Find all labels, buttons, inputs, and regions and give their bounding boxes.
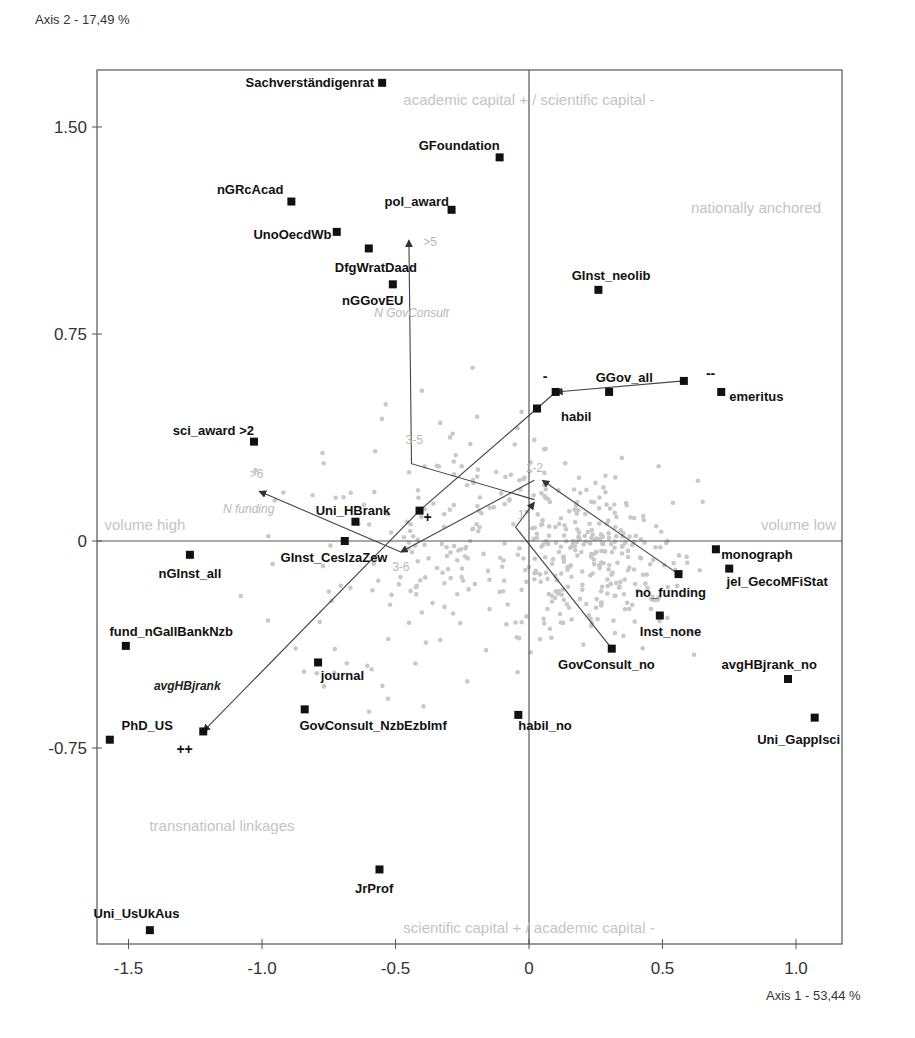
individual-point	[550, 599, 555, 604]
individual-point	[544, 570, 549, 575]
individual-point	[607, 563, 612, 568]
category-marker	[375, 865, 383, 873]
category-label: GInst_neolib	[572, 268, 651, 283]
individual-point	[543, 447, 548, 452]
individual-point	[386, 637, 391, 642]
individual-point	[618, 580, 623, 585]
individual-point	[671, 500, 676, 505]
individual-point	[559, 571, 564, 576]
individual-point	[424, 640, 429, 645]
individual-point	[632, 567, 637, 572]
individual-point	[473, 582, 478, 587]
individual-point	[622, 592, 627, 597]
individual-point	[481, 552, 486, 557]
category-marker	[784, 675, 792, 683]
individual-point	[648, 562, 653, 567]
category-label: sci_award >2	[173, 423, 254, 438]
individual-point	[477, 525, 482, 530]
category-marker	[199, 727, 207, 735]
individual-point	[595, 617, 600, 622]
individual-point	[369, 667, 374, 672]
y-tick-label: -0.75	[48, 739, 87, 758]
individual-point	[386, 697, 391, 702]
individual-point	[511, 522, 516, 527]
individual-point	[535, 512, 540, 517]
individual-point	[626, 549, 631, 554]
individual-point	[617, 584, 622, 589]
category-marker	[301, 705, 309, 713]
category-label: nGRcAcad	[217, 182, 284, 197]
individual-point	[422, 542, 427, 547]
individual-point	[444, 545, 449, 550]
individual-point	[413, 661, 418, 666]
individual-point	[547, 592, 552, 597]
individual-point	[583, 512, 588, 517]
region-label: transnational linkages	[149, 817, 294, 834]
individual-point	[538, 580, 543, 585]
individual-point	[630, 603, 635, 608]
individual-point	[601, 485, 606, 490]
individual-point	[627, 607, 632, 612]
trajectory-step-label: >6	[250, 467, 264, 481]
individual-point	[503, 475, 508, 480]
individual-point	[320, 451, 325, 456]
individual-point	[502, 502, 507, 507]
individual-point	[599, 589, 604, 594]
individual-point	[430, 601, 435, 606]
region-label: nationally anchored	[691, 199, 821, 216]
individual-point	[487, 578, 492, 583]
category-label: Sachverständigenrat	[246, 75, 375, 90]
individual-point	[553, 525, 558, 530]
individual-point	[591, 571, 596, 576]
individual-point	[685, 561, 690, 566]
individual-point	[608, 506, 613, 511]
individual-point	[293, 646, 298, 651]
category-label: journal	[320, 668, 364, 683]
individual-point	[600, 584, 605, 589]
individual-point	[465, 679, 470, 684]
category-marker	[594, 286, 602, 294]
individual-point	[411, 534, 416, 539]
category-label: jel_GecoMFiStat	[726, 574, 829, 589]
individual-point	[370, 588, 375, 593]
individual-point	[543, 555, 548, 560]
category-marker	[725, 565, 733, 573]
individual-point	[594, 605, 599, 610]
individual-point	[561, 555, 566, 560]
category-marker	[656, 612, 664, 620]
individual-point	[557, 521, 562, 526]
individual-point	[416, 496, 421, 501]
individual-point	[677, 553, 682, 558]
individual-point	[470, 527, 475, 532]
individual-point	[559, 516, 564, 521]
individual-point	[519, 588, 524, 593]
individual-point	[700, 499, 705, 504]
individual-point	[397, 582, 402, 587]
individual-point	[640, 646, 645, 651]
individual-point	[487, 607, 492, 612]
individual-point	[519, 410, 524, 415]
individual-point	[573, 520, 578, 525]
individual-point	[420, 389, 425, 394]
individual-point	[609, 542, 614, 547]
category-marker	[106, 736, 114, 744]
individual-point	[586, 530, 591, 535]
individual-point	[442, 512, 447, 517]
individual-point	[460, 566, 465, 571]
individual-point	[475, 504, 480, 509]
individual-point	[502, 578, 507, 583]
individual-point	[533, 568, 538, 573]
individual-point	[649, 607, 654, 612]
category-marker	[496, 153, 504, 161]
individual-point	[538, 572, 543, 577]
individual-point	[372, 490, 377, 495]
individual-point	[567, 509, 572, 514]
category-marker	[533, 405, 541, 413]
individual-point	[450, 431, 455, 436]
individual-point	[408, 589, 413, 594]
category-marker	[146, 926, 154, 934]
category-label: GovConsult_no	[558, 657, 655, 672]
individual-point	[671, 561, 676, 566]
individual-point	[410, 550, 415, 555]
category-label: GInst_CesIzaZew	[281, 550, 389, 565]
